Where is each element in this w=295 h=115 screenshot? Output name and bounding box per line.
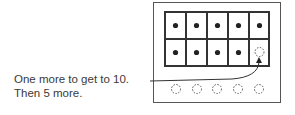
ten-frame-diagram: [0, 0, 295, 115]
extra-counters: [172, 85, 264, 94]
ten-frame: [165, 12, 269, 66]
empty-counter-tenth: [255, 48, 264, 57]
arrow-head-icon: [256, 57, 262, 63]
